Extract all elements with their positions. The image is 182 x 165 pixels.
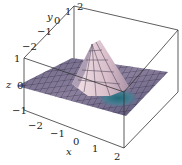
x-tick: 2 [114,151,120,162]
y-tick: 1 [65,6,71,17]
x-tick: −2 [28,120,43,131]
x-axis-label: x [66,146,72,157]
y-axis-label: y [46,11,53,22]
z-axis-label: z [5,79,12,90]
y-tick: −2 [22,41,37,52]
y-tick: 2 [77,1,83,12]
x-tick: 0 [73,136,79,147]
x-tick: 1 [92,143,98,154]
x-tick: −1 [50,128,65,139]
z-tick: −1 [12,105,27,116]
z-tick: 0 [17,80,23,91]
surface [17,40,168,116]
y-tick: 0 [54,15,60,26]
surface-plot: −2 −1 0 1 2 y 1 0 −1 z −2 −1 0 1 2 x [0,0,182,165]
y-tick: −1 [37,26,52,37]
z-tick: 1 [14,53,20,64]
